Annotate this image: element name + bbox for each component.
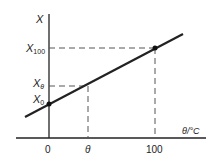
x-axis-label: θ/°C [182, 126, 200, 136]
point-x100 [153, 46, 158, 51]
x-label-100: 100 [146, 144, 163, 155]
y-label-x100: X100 [25, 42, 45, 55]
y-label-xtheta: Xθ [32, 77, 44, 90]
x-label-theta: θ [85, 144, 91, 155]
calibration-graph: X X100 Xθ X0 0 θ 100 θ/°C [0, 0, 216, 164]
y-label-x0: X0 [32, 93, 44, 106]
y-axis-label: X [35, 13, 44, 25]
point-x0 [47, 102, 52, 107]
x-label-0: 0 [45, 144, 51, 155]
